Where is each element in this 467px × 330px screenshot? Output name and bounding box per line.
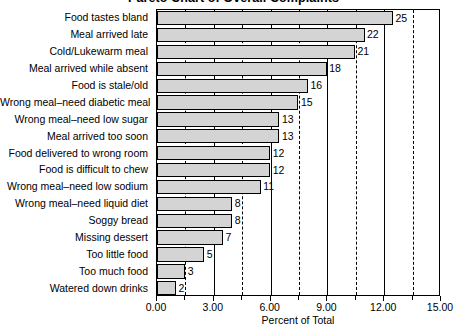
bar[interactable]	[157, 163, 270, 177]
x-tick-minor	[412, 296, 413, 300]
bar[interactable]	[157, 264, 185, 278]
bar-row: 8	[157, 196, 441, 213]
bar-row: 12	[157, 162, 441, 179]
x-tick-minor	[298, 296, 299, 300]
category-label: Food is difficult to chew	[0, 163, 152, 175]
bar[interactable]	[157, 129, 279, 143]
category-label: Meal arrived late	[0, 28, 152, 40]
x-tick-minor	[184, 296, 185, 300]
bar-value-label: 8	[232, 197, 240, 209]
bar-row: 8	[157, 213, 441, 230]
bar-row: 3	[157, 263, 441, 280]
bar-value-label: 11	[261, 180, 274, 192]
bar[interactable]	[157, 79, 308, 93]
bar[interactable]	[157, 146, 270, 160]
bar-value-label: 22	[365, 28, 379, 40]
category-label: Too little food	[0, 248, 152, 260]
bar-value-label: 12	[270, 164, 284, 176]
chart-title: Pareto Chart of Overall Complaints	[0, 0, 467, 5]
bar-row: 25	[157, 10, 441, 27]
bar-row: 11	[157, 179, 441, 196]
x-tick-label: 3.00	[203, 301, 223, 314]
bar[interactable]	[157, 45, 355, 59]
bar[interactable]	[157, 28, 365, 42]
x-axis-title: Percent of Total	[156, 314, 440, 326]
x-tick-label: 9.00	[316, 301, 336, 314]
category-label: Watered down drinks	[0, 282, 152, 294]
bar-value-label: 8	[232, 214, 240, 226]
x-tick-label: 6.00	[259, 301, 279, 314]
bar-value-label: 15	[298, 96, 312, 108]
bar[interactable]	[157, 281, 176, 295]
bar-value-label: 25	[393, 12, 407, 24]
bar-row: 2	[157, 280, 441, 297]
bar[interactable]	[157, 112, 279, 126]
category-label: Wrong meal–need low sodium	[0, 180, 152, 192]
bar[interactable]	[157, 247, 204, 261]
bar-row: 12	[157, 145, 441, 162]
bar[interactable]	[157, 230, 223, 244]
bar-row: 21	[157, 44, 441, 61]
x-tick-minor	[241, 296, 242, 300]
bar-row: 15	[157, 94, 441, 111]
category-label: Wrong meal–need diabetic meal	[0, 96, 152, 108]
bar-row: 7	[157, 229, 441, 246]
bar[interactable]	[157, 11, 393, 25]
category-label: Food is stale/old	[0, 79, 152, 91]
bar-value-label: 18	[327, 62, 341, 74]
bar-row: 13	[157, 111, 441, 128]
bar-value-label: 3	[185, 265, 193, 277]
bar[interactable]	[157, 95, 298, 109]
category-axis-labels: Food tastes blandMeal arrived lateCold/L…	[0, 9, 152, 296]
category-label: Wrong meal–need low sugar	[0, 113, 152, 125]
bar-row: 16	[157, 78, 441, 95]
bar-row: 5	[157, 246, 441, 263]
bar-value-label: 5	[204, 248, 212, 260]
category-label: Missing dessert	[0, 231, 152, 243]
x-tick-label: 12.00	[370, 301, 396, 314]
category-label: Meal arrived too soon	[0, 130, 152, 142]
bar-row: 18	[157, 61, 441, 78]
bar-rows: 2522211816151313121211887532	[157, 10, 441, 297]
category-label: Soggy bread	[0, 214, 152, 226]
bar-value-label: 13	[279, 113, 293, 125]
bar-value-label: 2	[176, 282, 184, 294]
category-label: Wrong meal–need liquid diet	[0, 197, 152, 209]
category-label: Too much food	[0, 265, 152, 277]
plot-area: 2522211816151313121211887532	[156, 9, 440, 296]
category-label: Food tastes bland	[0, 11, 152, 23]
category-label: Food delivered to wrong room	[0, 147, 152, 159]
x-tick-minor	[355, 296, 356, 300]
bar-value-label: 7	[223, 231, 231, 243]
bar-row: 13	[157, 128, 441, 145]
bar-row: 22	[157, 27, 441, 44]
category-label: Cold/Lukewarm meal	[0, 45, 152, 57]
x-tick-label: 15.00	[427, 301, 453, 314]
x-tick-label: 0.00	[146, 301, 166, 314]
pareto-chart: Pareto Chart of Overall Complaints Food …	[0, 0, 467, 330]
bar[interactable]	[157, 62, 327, 76]
bar-value-label: 21	[355, 45, 369, 57]
category-label: Meal arrived while absent	[0, 62, 152, 74]
bar[interactable]	[157, 197, 232, 211]
bar-value-label: 13	[279, 130, 293, 142]
bar[interactable]	[157, 180, 261, 194]
bar[interactable]	[157, 214, 232, 228]
bar-value-label: 12	[270, 147, 284, 159]
bar-value-label: 16	[308, 79, 322, 91]
